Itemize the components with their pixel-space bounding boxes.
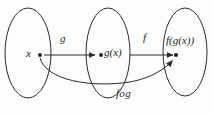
- point-x: [38, 53, 42, 57]
- label-fgx: f(g(x)): [166, 35, 194, 46]
- label-composition: fog: [116, 88, 131, 99]
- label-x: x: [26, 48, 31, 59]
- set-ellipse-codomain: [163, 8, 207, 96]
- arrow-fog-composition: [40, 58, 173, 84]
- label-arrow-g: g: [60, 33, 66, 44]
- function-composition-diagram: x g(x) f(g(x)) g f fog: [0, 0, 214, 114]
- label-gx: g(x): [104, 47, 122, 58]
- label-arrow-f: f: [143, 32, 146, 43]
- point-fgx: [174, 53, 178, 57]
- point-gx: [99, 53, 103, 57]
